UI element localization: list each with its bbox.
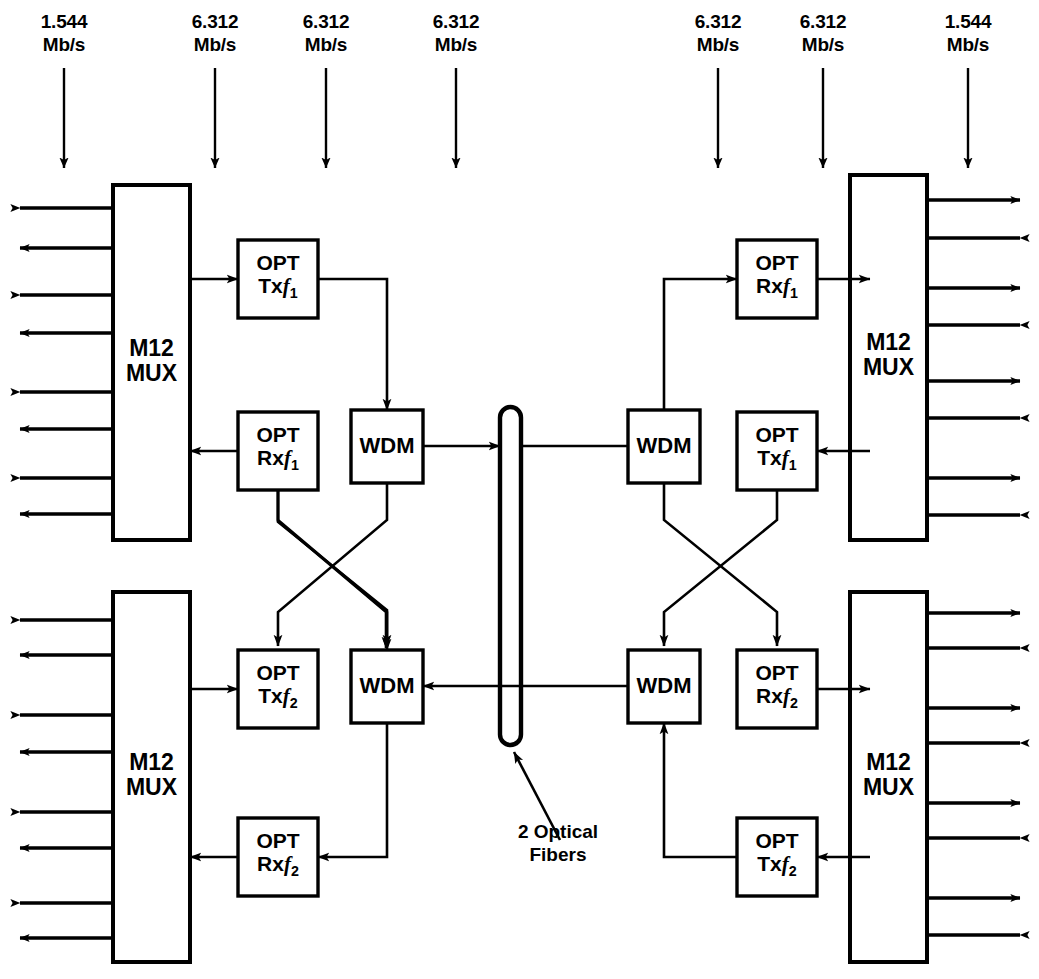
- opt-bl-rx-box: [238, 818, 318, 896]
- opt-tr-rx-box: [737, 240, 817, 318]
- crossover-left-visible: [278, 483, 387, 646]
- rate-label-7: 1.544 Mb/s: [918, 10, 1018, 56]
- opt-wdm-outlines: [238, 240, 817, 896]
- opt-tl-tx-box: [238, 240, 318, 318]
- link-optBRtx-to-wdmBR: [664, 723, 737, 857]
- tributaries-bottom-right: [927, 613, 1020, 935]
- opt-br-rx-box: [737, 650, 817, 728]
- left-wdm1-to-tx2: [278, 483, 387, 646]
- rate-label-6: 6.312 Mb/s: [773, 10, 873, 56]
- wdm-bottom-left-box: [351, 650, 423, 723]
- wdm-bottom-right-box: [628, 650, 700, 723]
- optical-fiber-capsule: [500, 407, 521, 745]
- rate-label-1: 1.544 Mb/s: [14, 10, 114, 56]
- rate-label-5: 6.312 Mb/s: [668, 10, 768, 56]
- mux-top-left-box: [113, 185, 190, 540]
- right-tx1-to-wdm2b: [664, 490, 777, 646]
- fiber-callout-label: 2 Optical Fibers: [468, 820, 648, 866]
- fiber-links: [423, 446, 628, 686]
- opt-bl-tx-box: [238, 650, 318, 728]
- tributaries-top-right: [927, 200, 1020, 515]
- wdm-top-left-box: [351, 410, 423, 483]
- rate-label-3: 6.312 Mb/s: [276, 10, 376, 56]
- diagram-canvas: 1.544 Mb/s 6.312 Mb/s 6.312 Mb/s 6.312 M…: [0, 0, 1039, 979]
- rate-label-4: 6.312 Mb/s: [406, 10, 506, 56]
- opt-tr-tx-box: [737, 412, 817, 490]
- opt-br-tx-box: [737, 818, 817, 896]
- wdm-top-right-box: [628, 410, 700, 483]
- link-wdmTR-to-optTRrx: [664, 279, 737, 410]
- mux-top-right-box: [850, 175, 927, 540]
- mux-bottom-left-box: [113, 592, 190, 962]
- link-optTLtx-to-wdmTL: [318, 279, 387, 410]
- tributaries-bottom-left: [20, 620, 113, 938]
- link-wdmBL-to-optBLrx: [318, 723, 387, 857]
- tributaries-top-left: [20, 208, 113, 514]
- opt-tl-rx-box: [238, 412, 318, 490]
- rate-label-2: 6.312 Mb/s: [165, 10, 265, 56]
- crossover-right-visible: [664, 483, 777, 646]
- cross-line-a: [278, 490, 387, 650]
- mux-bottom-right-box: [850, 592, 927, 962]
- crossover-left: [278, 489, 387, 650]
- top-rate-arrows: [64, 68, 968, 168]
